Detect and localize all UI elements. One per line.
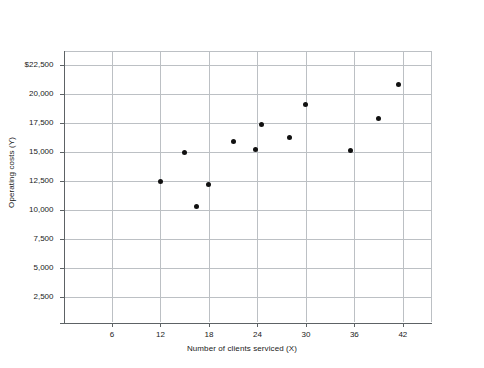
data-point <box>376 116 381 121</box>
gridline-horizontal <box>64 239 432 240</box>
x-tick-label: 24 <box>237 330 277 339</box>
gridline-vertical <box>160 51 161 322</box>
y-tick-label: 12,500 <box>0 176 54 185</box>
x-tick-label: 36 <box>334 330 374 339</box>
data-point <box>287 135 292 140</box>
data-point <box>303 102 308 107</box>
data-point <box>194 204 199 209</box>
gridline-vertical <box>354 51 355 322</box>
y-tick-label: 17,500 <box>0 118 54 127</box>
gridline-top-frame <box>64 51 432 52</box>
x-tick-label: 18 <box>189 330 229 339</box>
y-tick-label: 10,000 <box>0 205 54 214</box>
gridline-horizontal <box>64 268 432 269</box>
y-tick-label: 5,000 <box>0 263 54 272</box>
x-tick-label: 30 <box>286 330 326 339</box>
data-point <box>396 82 401 87</box>
y-tick-label: 2,500 <box>0 292 54 301</box>
data-point <box>348 148 353 153</box>
gridline-horizontal <box>64 210 432 211</box>
scatter-plot: Operating costs (Y) Number of clients se… <box>0 0 484 368</box>
gridline-right-frame <box>431 51 432 322</box>
y-axis-line <box>64 51 65 323</box>
y-tick-label: 15,000 <box>0 147 54 156</box>
x-axis-line <box>60 323 433 324</box>
gridline-vertical <box>112 51 113 322</box>
data-point <box>206 182 211 187</box>
y-tick-label: 7,500 <box>0 234 54 243</box>
x-axis-title: Number of clients serviced (X) <box>0 344 484 353</box>
gridline-horizontal <box>64 94 432 95</box>
data-point <box>158 179 163 184</box>
x-tick-label: 12 <box>140 330 180 339</box>
x-tick-label: 6 <box>92 330 132 339</box>
data-point <box>182 150 187 155</box>
gridline-horizontal <box>64 297 432 298</box>
data-point <box>259 122 264 127</box>
data-point <box>231 139 236 144</box>
gridline-vertical <box>257 51 258 322</box>
y-tick-label: $22,500 <box>0 60 54 69</box>
x-tick-label: 42 <box>383 330 423 339</box>
gridline-horizontal <box>64 152 432 153</box>
y-tick-label: 20,000 <box>0 89 54 98</box>
gridline-vertical <box>306 51 307 322</box>
gridline-horizontal <box>64 65 432 66</box>
gridline-horizontal <box>64 123 432 124</box>
gridline-horizontal <box>64 181 432 182</box>
gridline-vertical <box>403 51 404 322</box>
